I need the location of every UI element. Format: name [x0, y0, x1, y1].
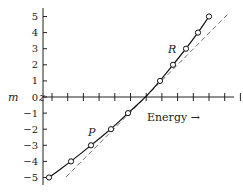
chart: 543210−1−2−3−4−5 m z P R Energy → — [0, 0, 243, 194]
svg-text:1: 1 — [32, 75, 38, 86]
origin-label: z — [38, 91, 45, 104]
svg-text:5: 5 — [32, 11, 38, 22]
svg-text:−2: −2 — [23, 124, 38, 135]
svg-text:−3: −3 — [23, 140, 38, 151]
svg-text:2: 2 — [32, 59, 38, 70]
svg-text:4: 4 — [32, 27, 38, 38]
axes — [43, 8, 240, 185]
svg-text:0: 0 — [32, 92, 38, 103]
svg-text:−1: −1 — [23, 108, 38, 119]
annotation-P: P — [87, 126, 96, 139]
x-axis-label: Energy → — [147, 111, 200, 124]
svg-text:−5: −5 — [23, 172, 38, 183]
svg-text:3: 3 — [32, 43, 38, 54]
svg-text:−4: −4 — [23, 156, 38, 167]
annotation-R: R — [167, 43, 176, 56]
y-axis-label: m — [8, 91, 18, 104]
